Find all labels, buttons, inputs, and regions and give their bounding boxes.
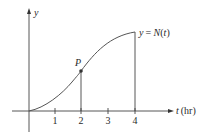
- point-p-label: P: [74, 57, 81, 68]
- x-axis-unit: (hr): [181, 105, 196, 117]
- curve-label-y: y: [138, 27, 144, 38]
- x-tick-label-3: 3: [106, 115, 111, 126]
- x-axis-label: t(hr): [176, 105, 196, 117]
- curve-label: y= N(t): [138, 27, 170, 39]
- y-axis-label: y: [33, 7, 39, 18]
- x-tick-label-1: 1: [53, 115, 58, 126]
- chart-figure: y t(hr) 1 2 3 4 P y= N(t): [0, 0, 205, 134]
- point-p-marker: [79, 69, 83, 73]
- x-tick-label-2: 2: [79, 115, 84, 126]
- x-axis-var: t: [176, 105, 179, 116]
- x-tick-label-4: 4: [133, 115, 138, 126]
- chart-svg: y t(hr) 1 2 3 4 P y= N(t): [0, 0, 205, 134]
- x-axis-arrow-icon: [168, 109, 174, 113]
- y-axis-arrow-icon: [27, 8, 31, 14]
- curve-label-close: ): [166, 27, 169, 39]
- curve-label-eq: =: [145, 27, 153, 38]
